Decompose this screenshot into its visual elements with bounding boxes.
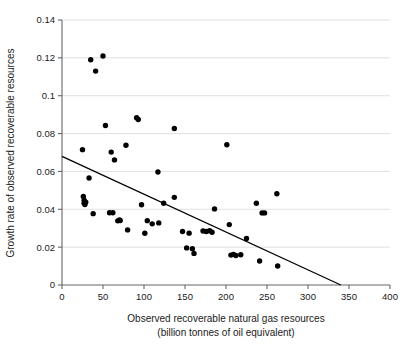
data-point: [275, 263, 280, 268]
y-tick-label: 0.08: [37, 128, 56, 139]
y-tick-label: 0: [50, 279, 55, 290]
y-tick-label: 0.04: [37, 204, 56, 215]
x-tick-label: 400: [382, 291, 398, 302]
data-point: [103, 123, 108, 128]
x-tick-label: 250: [259, 291, 275, 302]
y-tick-label: 0.06: [37, 166, 56, 177]
data-point: [156, 220, 161, 225]
data-point: [172, 126, 177, 131]
data-point: [238, 252, 243, 257]
y-tick-label: 0.02: [37, 242, 56, 253]
data-point: [191, 251, 196, 256]
scatter-chart: 00.020.040.060.080.10.120.14 05010015020…: [0, 0, 412, 349]
data-point: [209, 229, 214, 234]
data-point: [257, 258, 262, 263]
data-point: [150, 221, 155, 226]
x-tick-label: 100: [136, 291, 152, 302]
data-point: [136, 117, 141, 122]
x-tick-label: 200: [218, 291, 234, 302]
data-point: [274, 191, 279, 196]
y-tick-label: 0.1: [42, 90, 55, 101]
data-point: [186, 230, 191, 235]
data-point: [90, 211, 95, 216]
data-point: [100, 53, 105, 58]
data-point: [254, 201, 259, 206]
y-axis-ticks-group: 00.020.040.060.080.10.120.14: [37, 14, 63, 290]
data-points-group: [80, 53, 281, 269]
x-tick-label: 350: [341, 291, 357, 302]
y-tick-label: 0.12: [37, 52, 56, 63]
data-point: [155, 169, 160, 174]
data-point: [123, 143, 128, 148]
data-point: [86, 175, 91, 180]
data-point: [112, 157, 117, 162]
plot-area: 00.020.040.060.080.10.120.14 05010015020…: [0, 0, 412, 349]
x-tick-label: 0: [59, 291, 64, 302]
data-point: [184, 245, 189, 250]
data-point: [139, 202, 144, 207]
trend-line: [62, 156, 341, 285]
data-point: [142, 231, 147, 236]
data-point: [125, 227, 130, 232]
data-point: [224, 142, 229, 147]
data-point: [212, 206, 217, 211]
data-point: [88, 57, 93, 62]
data-point: [80, 147, 85, 152]
x-axis-subtitle: (billion tonnes of oil equivalent): [157, 327, 294, 338]
x-tick-label: 50: [98, 291, 109, 302]
y-axis-title: Growth rate of observed recoverable reso…: [5, 49, 16, 258]
x-axis-title: Observed recoverable natural gas resourc…: [127, 313, 324, 324]
data-point: [109, 149, 114, 154]
data-point: [117, 217, 122, 222]
data-point: [83, 199, 88, 204]
data-point: [262, 210, 267, 215]
data-point: [227, 222, 232, 227]
data-point: [172, 195, 177, 200]
data-point: [93, 68, 98, 73]
x-axis-ticks-group: 050100150200250300350400: [59, 285, 398, 302]
data-point: [190, 246, 195, 251]
data-point: [233, 253, 238, 258]
x-tick-label: 150: [177, 291, 193, 302]
data-point: [110, 210, 115, 215]
x-tick-label: 300: [300, 291, 316, 302]
y-tick-label: 0.14: [37, 14, 56, 25]
data-point: [180, 229, 185, 234]
data-point: [145, 218, 150, 223]
